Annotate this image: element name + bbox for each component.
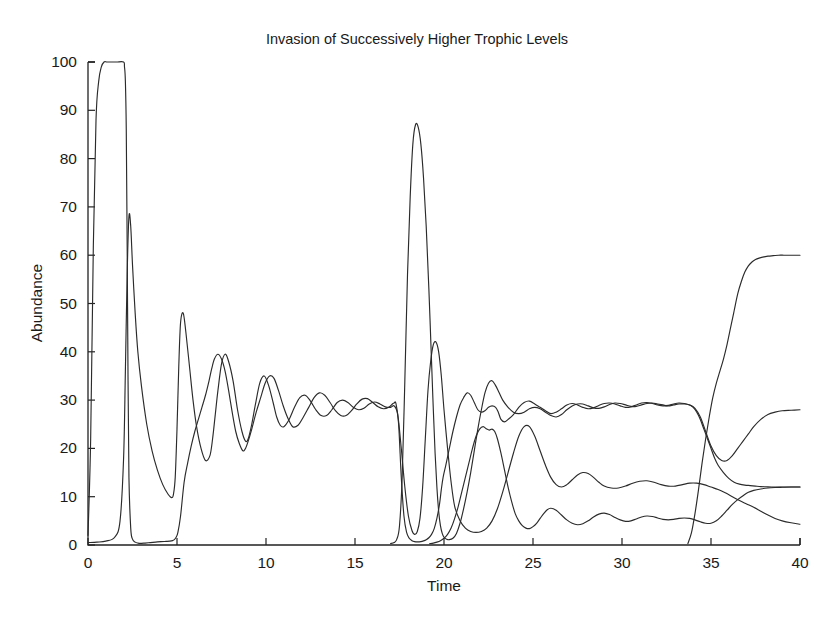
y-tick-label: 90 [60, 101, 78, 118]
y-tick-label: 70 [60, 198, 78, 215]
x-tick-label: 15 [346, 554, 363, 571]
y-tick-label: 100 [51, 53, 77, 70]
y-axis-title: Abundance [28, 264, 45, 342]
x-tick-label: 5 [173, 554, 182, 571]
y-tick-label: 20 [60, 439, 78, 456]
y-tick-label: 10 [60, 488, 78, 505]
x-tick-label: 40 [791, 554, 809, 571]
abundance-time-line-chart: Invasion of Successively Higher Trophic … [0, 0, 834, 617]
y-tick-label: 40 [60, 343, 78, 360]
y-tick-label: 60 [60, 246, 78, 263]
chart-title: Invasion of Successively Higher Trophic … [266, 31, 568, 47]
x-tick-label: 35 [702, 554, 719, 571]
x-tick-label: 10 [257, 554, 275, 571]
x-tick-label: 30 [613, 554, 631, 571]
x-axis-title: Time [427, 577, 461, 594]
x-tick-label: 25 [524, 554, 541, 571]
x-tick-label: 20 [435, 554, 453, 571]
y-tick-label: 30 [60, 391, 78, 408]
y-tick-label: 80 [60, 150, 78, 167]
x-tick-label: 0 [84, 554, 93, 571]
y-tick-label: 50 [60, 295, 78, 312]
figure-container: Invasion of Successively Higher Trophic … [0, 0, 834, 617]
y-tick-label: 0 [68, 536, 77, 553]
